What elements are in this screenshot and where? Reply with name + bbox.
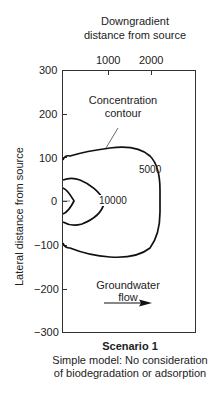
annotation-contour: contour	[85, 107, 161, 120]
annotation-leader	[106, 128, 118, 148]
caption-line1: Simple model: No consideration	[50, 354, 210, 367]
contour-label-5000: 5000	[139, 164, 161, 175]
flow-label-line2: flow	[88, 291, 168, 304]
caption-line2: of biodegradation or adsorption	[50, 367, 210, 380]
caption-title: Scenario 1	[50, 340, 210, 352]
contour-label-10000: 10000	[98, 195, 128, 206]
annotation-concentration: Concentration	[85, 94, 161, 107]
